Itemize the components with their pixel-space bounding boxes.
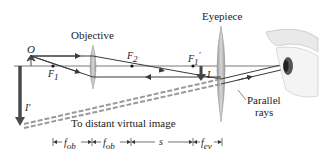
fob-2-subscript: ob	[106, 141, 115, 149]
f2-subscript: 2	[133, 54, 138, 64]
f1-label: F1	[48, 69, 59, 82]
objective-label: Objective	[71, 30, 114, 41]
parallel-rays-label-line1: Parallel	[247, 95, 281, 106]
f1-prime-label: F1′	[188, 51, 201, 67]
fob-1-subscript: ob	[67, 141, 76, 149]
fev-subscript: ev	[204, 141, 212, 149]
eyepiece-lens	[217, 26, 225, 122]
object-label: O	[27, 44, 35, 55]
f1-subscript: 1	[54, 72, 59, 82]
eyepiece-label: Eyepiece	[202, 11, 242, 22]
dimension-fev: fev	[201, 138, 212, 149]
f2-label: F2	[127, 51, 138, 64]
parallel-rays-leader	[238, 90, 246, 100]
exit-arrow	[238, 77, 250, 80]
dimension-s: s	[159, 137, 163, 147]
parallel-rays-label-line2: rays	[255, 107, 273, 118]
dimension-fob-1: fob	[64, 138, 76, 149]
dimension-fob-2: fob	[103, 138, 115, 149]
image-I-prime-head	[15, 117, 25, 126]
virtual-image-label: To distant virtual image	[71, 118, 176, 129]
eye-illustration	[266, 29, 318, 97]
dimension-bar	[53, 138, 222, 146]
f1-prime-mark: ′	[199, 50, 201, 60]
microscope-diagram: Objective Eyepiece O F1 F2 F1′ I I′ Para…	[0, 0, 328, 149]
objective-lens	[90, 45, 96, 89]
image-I-label: I	[207, 70, 210, 80]
focal-point-F2	[130, 64, 133, 67]
image-I-prime-label: I′	[25, 103, 31, 113]
